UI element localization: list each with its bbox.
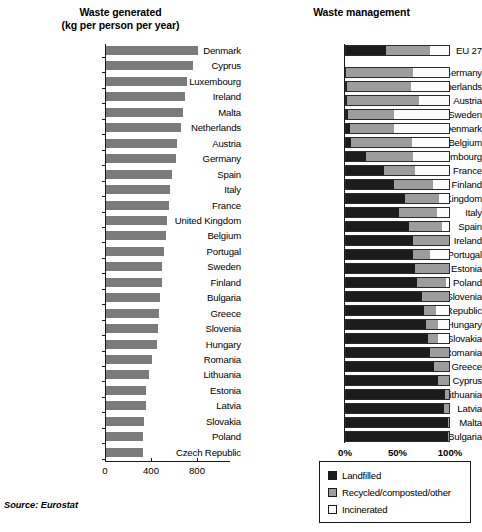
waste-management-stacked-bar — [345, 193, 450, 204]
waste-management-stacked-bar — [345, 263, 450, 274]
segment-landfilled — [346, 404, 444, 413]
waste-management-row: Germany — [241, 66, 482, 79]
waste-management-row: Romania — [241, 346, 482, 359]
waste-generated-bar — [106, 123, 181, 132]
waste-generated-row: Hungary — [0, 338, 241, 352]
segment-recycled — [346, 68, 413, 77]
left-axis-tick — [102, 397, 105, 398]
segment-incinerated — [420, 96, 451, 105]
waste-management-row: Slovenia — [241, 290, 482, 303]
waste-management-stacked-bar — [345, 123, 450, 134]
left-axis-tick — [102, 381, 105, 382]
waste-management-stacked-bar — [345, 165, 450, 176]
waste-generated-row: Austria — [0, 137, 241, 151]
waste-generated-row-label: Romania — [140, 353, 241, 367]
segment-recycled — [415, 264, 450, 273]
legend-label-incinerated: Incinerated — [342, 503, 387, 517]
waste-generated-bar — [106, 448, 143, 457]
segment-incinerated — [430, 250, 450, 259]
segment-landfilled — [346, 236, 413, 245]
waste-management-stacked-bar — [345, 81, 450, 92]
left-axis-tick — [102, 165, 105, 166]
segment-incinerated — [412, 138, 450, 147]
segment-incinerated — [436, 306, 450, 315]
waste-management-row: Latvia — [241, 402, 482, 415]
waste-generated-row: Romania — [0, 353, 241, 367]
left-axis-tick — [102, 227, 105, 228]
legend-label-recycled: Recycled/composted/other — [342, 486, 451, 500]
left-x-tick — [105, 458, 106, 462]
segment-recycled — [448, 432, 450, 441]
waste-management-stacked-bar — [345, 151, 450, 162]
segment-landfilled — [346, 278, 417, 287]
segment-divider — [449, 236, 450, 245]
waste-generated-bar — [106, 324, 158, 333]
waste-generated-row: United Kingdom — [0, 214, 241, 228]
segment-incinerated — [430, 46, 450, 55]
waste-generated-row: Denmark — [0, 44, 241, 58]
legend-swatch-landfilled — [328, 471, 337, 480]
segment-landfilled — [346, 376, 438, 385]
left-axis-tick — [102, 72, 105, 73]
waste-generated-row: Latvia — [0, 399, 241, 413]
waste-generated-row: Malta — [0, 106, 241, 120]
segment-recycled — [348, 110, 394, 119]
waste-management-row: Spain — [241, 220, 482, 233]
waste-generated-bar — [106, 216, 167, 225]
waste-management-stacked-bar — [345, 179, 450, 190]
waste-generated-plot: DenmarkCyprusLuxembourgIrelandMaltaNethe… — [0, 0, 241, 532]
waste-management-row: Finland — [241, 178, 482, 191]
left-axis-tick — [102, 258, 105, 259]
waste-management-stacked-bar — [345, 305, 450, 316]
waste-management-row: Netherlands — [241, 80, 482, 93]
waste-generated-bar — [106, 309, 159, 318]
waste-management-stacked-bar — [345, 417, 450, 428]
segment-landfilled — [346, 292, 422, 301]
waste-generated-bar — [106, 108, 183, 117]
segment-landfilled — [346, 334, 428, 343]
left-axis-tick — [102, 103, 105, 104]
waste-generated-bar — [106, 386, 146, 395]
waste-generated-row: Slovakia — [0, 415, 241, 429]
waste-management-stacked-bar — [345, 333, 450, 344]
waste-management-stacked-bar — [345, 137, 450, 148]
segment-recycled — [422, 292, 450, 301]
left-axis-tick — [102, 366, 105, 367]
segment-recycled — [430, 348, 450, 357]
waste-generated-row: Lithuania — [0, 368, 241, 382]
waste-management-row: EU 27 — [241, 44, 482, 57]
segment-recycled — [428, 334, 439, 343]
waste-management-row: Lithuania — [241, 388, 482, 401]
segment-landfilled — [346, 250, 413, 259]
waste-management-stacked-bar — [345, 431, 450, 442]
waste-generated-bar — [106, 154, 176, 163]
left-axis-tick — [102, 212, 105, 213]
right-y-axis — [344, 44, 345, 443]
waste-management-plot: EU 27GermanyNetherlandsAustriaSwedenDenm… — [241, 0, 482, 532]
waste-generated-row-label: Poland — [140, 430, 241, 444]
segment-landfilled — [346, 348, 430, 357]
waste-generated-row: Greece — [0, 307, 241, 321]
segment-recycled — [448, 418, 450, 427]
waste-management-stacked-bar — [345, 375, 450, 386]
waste-generated-row: Spain — [0, 168, 241, 182]
waste-generated-bar — [106, 46, 198, 55]
left-axis-tick — [102, 150, 105, 151]
left-axis-tick — [102, 181, 105, 182]
segment-landfilled — [346, 306, 424, 315]
waste-management-stacked-bar — [345, 347, 450, 358]
waste-generated-row-label: Lithuania — [140, 368, 241, 382]
waste-management-row: Malta — [241, 416, 482, 429]
left-axis-tick — [102, 57, 105, 58]
waste-management-stacked-bar — [345, 249, 450, 260]
waste-generated-bar — [106, 293, 160, 302]
waste-management-stacked-bar — [345, 389, 450, 400]
segment-incinerated — [394, 110, 450, 119]
segment-incinerated — [449, 236, 450, 245]
waste-generated-row: Finland — [0, 276, 241, 290]
segment-incinerated — [446, 278, 450, 287]
segment-recycled — [434, 362, 450, 371]
waste-generated-bar — [106, 170, 172, 179]
waste-management-row: Cyprus — [241, 374, 482, 387]
segment-recycled — [351, 138, 412, 147]
